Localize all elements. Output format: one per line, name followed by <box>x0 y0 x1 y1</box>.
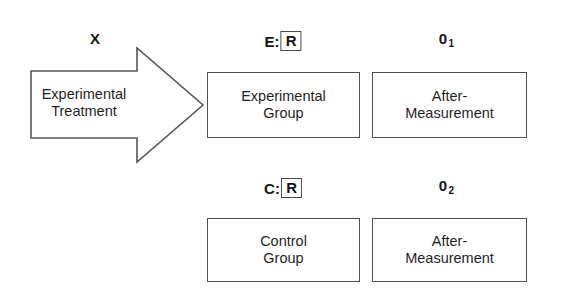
observation-label-o2: 02 <box>439 178 453 193</box>
experimental-group-label: Experimental Group <box>241 88 326 122</box>
assignment-label-control: C: R <box>264 178 302 198</box>
observation-symbol: 0 <box>439 30 448 47</box>
after-measurement-box-1: After- Measurement <box>372 72 527 138</box>
observation-subscript: 1 <box>448 38 454 49</box>
assignment-label-experimental: E: R <box>264 31 301 51</box>
after-measurement-label-2: After- Measurement <box>405 233 494 267</box>
assignment-prefix: E: <box>264 34 280 49</box>
after-measurement-label-1: After- Measurement <box>405 88 494 122</box>
randomization-badge: R <box>281 178 302 198</box>
assignment-prefix: C: <box>264 181 281 196</box>
observation-symbol: 0 <box>439 177 448 194</box>
observation-subscript: 2 <box>448 185 454 196</box>
observation-label-o1: 01 <box>439 31 453 46</box>
experimental-group-box: Experimental Group <box>207 72 360 138</box>
diagram-canvas: X Experimental Treatment E: R 01 Experim… <box>0 0 561 295</box>
after-measurement-box-2: After- Measurement <box>372 218 527 282</box>
treatment-arrow-caption: Experimental Treatment <box>31 86 137 120</box>
control-group-box: Control Group <box>207 218 360 282</box>
randomization-badge: R <box>281 31 302 51</box>
control-group-label: Control Group <box>260 233 307 267</box>
